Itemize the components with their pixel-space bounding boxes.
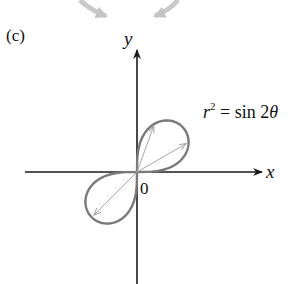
equation-equals: = sin 2 bbox=[216, 102, 270, 122]
decorative-curved-arrow-left bbox=[80, 0, 106, 16]
x-axis-label: x bbox=[266, 162, 274, 181]
origin-label: 0 bbox=[140, 180, 149, 197]
equation-r: r bbox=[203, 102, 210, 122]
panel-label: (c) bbox=[6, 27, 25, 44]
equation-theta: θ bbox=[269, 102, 278, 122]
curve-equation: r2 = sin 2θ bbox=[203, 101, 278, 121]
y-axis-label: y bbox=[124, 29, 132, 48]
radius-vector-1 bbox=[137, 144, 186, 172]
polar-graph bbox=[0, 0, 306, 284]
radius-vectors bbox=[94, 126, 186, 215]
decorative-curved-arrow-right bbox=[155, 0, 178, 16]
